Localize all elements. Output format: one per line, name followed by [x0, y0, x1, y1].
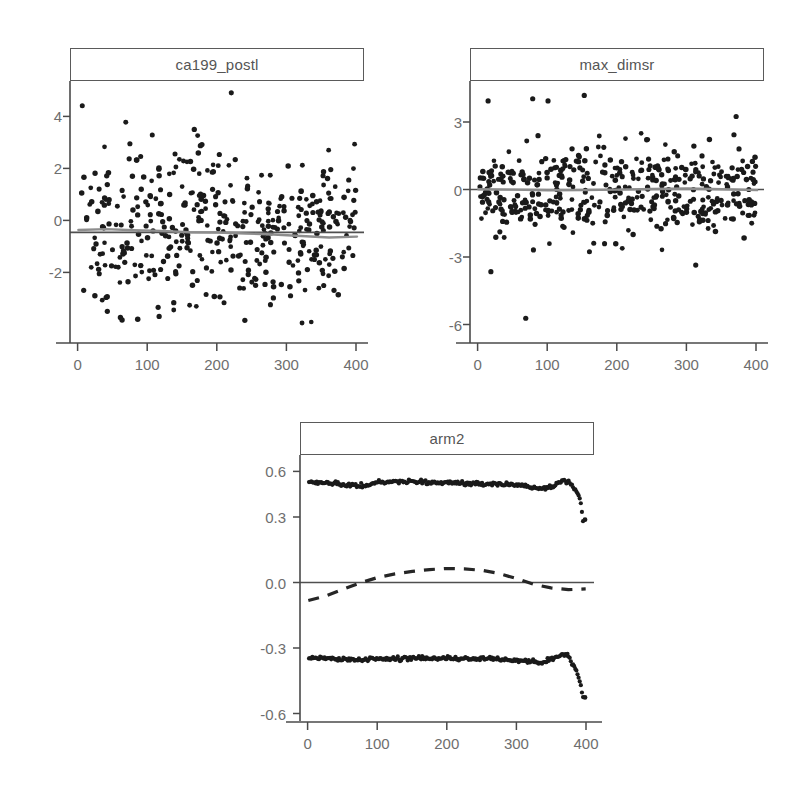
- scatter-point: [296, 278, 301, 283]
- scatter-point: [597, 133, 602, 138]
- scatter-point: [655, 166, 661, 172]
- scatter-point: [188, 159, 194, 165]
- scatter-point: [736, 146, 741, 151]
- scatter-point: [622, 215, 627, 220]
- scatter-point: [718, 175, 723, 180]
- scatter-point: [479, 216, 484, 221]
- scatter-point: [711, 201, 716, 206]
- scatter-point: [715, 208, 721, 214]
- scatter-point: [242, 210, 247, 215]
- scatter-point: [92, 293, 97, 298]
- scatter-point: [532, 177, 537, 182]
- scatter-point: [268, 173, 273, 178]
- scatter-point: [647, 208, 652, 213]
- scatter-point: [233, 157, 238, 162]
- scatter-point: [262, 282, 267, 287]
- scatter-point: [574, 158, 579, 163]
- scatter-point-outlier: [734, 114, 739, 119]
- scatter-point: [174, 239, 179, 244]
- scatter-point: [603, 219, 608, 224]
- scatter-point: [254, 258, 259, 263]
- scatter-point: [317, 260, 323, 266]
- scatter-point: [570, 197, 575, 202]
- scatter-point: [625, 198, 630, 203]
- scatter-point: [623, 136, 628, 141]
- scatter-point: [534, 211, 539, 216]
- scatter-point: [617, 170, 622, 175]
- scatter-point: [740, 159, 745, 164]
- scatter-point: [277, 204, 282, 209]
- scatter-point: [493, 205, 498, 210]
- scatter-point: [611, 205, 616, 210]
- scatter-point: [135, 204, 140, 209]
- scatter-point: [551, 158, 556, 163]
- scatter-point: [144, 253, 149, 258]
- scatter-point: [699, 153, 704, 158]
- scatter-point: [679, 165, 684, 170]
- scatter-point: [152, 272, 157, 277]
- scatter-point: [508, 176, 513, 181]
- scatter-point: [120, 188, 125, 193]
- scatter-point: [510, 210, 515, 215]
- scatter-point: [250, 205, 255, 210]
- scatter-point: [191, 167, 197, 173]
- scatter-point: [321, 283, 326, 288]
- scatter-point: [638, 205, 643, 210]
- scatter-point: [506, 149, 511, 154]
- scatter-point: [93, 241, 98, 246]
- scatter-point: [560, 224, 565, 229]
- scatter-point: [139, 239, 144, 244]
- scatter-point: [605, 213, 611, 219]
- scatter-point: [696, 170, 701, 175]
- scatter-point: [627, 207, 633, 213]
- scatter-point: [648, 163, 653, 168]
- x-axis-max-dimsr: [456, 336, 776, 358]
- scatter-point: [291, 263, 296, 268]
- scatter-point: [151, 268, 156, 273]
- scatter-point: [716, 164, 721, 169]
- panel-title-strip-ca199-postl: ca199_postl: [70, 48, 364, 81]
- scatter-point: [259, 173, 264, 178]
- scatter-point: [675, 220, 680, 225]
- scatter-point: [623, 164, 628, 169]
- scatter-point: [517, 158, 522, 163]
- scatter-point: [578, 203, 583, 208]
- scatter-point: [593, 159, 598, 164]
- scatter-point: [492, 158, 497, 163]
- scatter-point: [515, 193, 520, 198]
- y-axis-arm2: [286, 455, 302, 730]
- scatter-point: [187, 303, 192, 308]
- scatter-point: [256, 190, 261, 195]
- lower-band-arm2: [307, 652, 587, 700]
- scatter-point: [168, 244, 173, 249]
- scatter-point: [228, 237, 233, 242]
- scatter-point: [536, 201, 541, 206]
- scatter-point: [310, 193, 316, 199]
- scatter-point: [92, 171, 97, 176]
- scatter-point-outlier: [530, 96, 535, 101]
- scatter-point: [287, 284, 293, 290]
- scatter-point: [199, 142, 204, 147]
- scatter-point: [248, 212, 253, 217]
- scatter-point: [603, 183, 608, 188]
- scatter-point: [156, 173, 161, 178]
- scatter-point: [268, 302, 273, 307]
- scatter-point: [210, 250, 215, 255]
- scatter-point: [125, 279, 130, 284]
- scatter-point: [328, 248, 333, 253]
- scatter-point: [706, 226, 711, 231]
- scatter-point: [218, 260, 223, 265]
- scatter-point: [352, 225, 357, 230]
- scatter-point: [326, 273, 331, 278]
- scatter-point: [212, 294, 218, 300]
- scatter-point: [132, 262, 137, 267]
- scatter-point: [305, 267, 310, 272]
- scatter-point: [217, 219, 222, 224]
- scatter-point: [353, 210, 358, 215]
- scatter-point: [665, 166, 670, 171]
- scatter-point: [653, 178, 658, 183]
- scatter-point: [89, 199, 94, 204]
- scatter-point: [752, 155, 757, 160]
- scatter-point: [165, 276, 170, 281]
- xtick-label-ca199-postl-3: 300: [274, 356, 299, 373]
